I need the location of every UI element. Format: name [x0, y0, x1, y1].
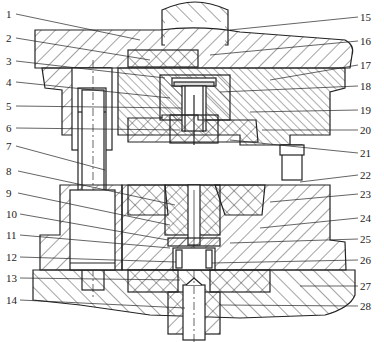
part-label-4: 4	[6, 77, 12, 88]
part-label-10: 10	[6, 209, 17, 220]
part-label-22: 22	[360, 170, 371, 181]
part-label-9: 9	[6, 188, 12, 199]
part-label-6: 6	[6, 123, 12, 134]
part-label-17: 17	[360, 60, 371, 71]
part-label-15: 15	[360, 12, 371, 23]
part-label-3: 3	[6, 56, 12, 67]
part-label-23: 23	[360, 189, 371, 200]
part-label-8: 8	[6, 166, 12, 177]
part-label-19: 19	[360, 105, 371, 116]
part-label-12: 12	[6, 252, 17, 263]
part-label-1: 1	[6, 9, 12, 20]
part-label-28: 28	[360, 301, 371, 312]
part-label-21: 21	[360, 148, 371, 159]
die-assembly-drawing	[0, 0, 384, 342]
lower-die	[33, 185, 355, 342]
part-label-7: 7	[6, 141, 12, 152]
part-label-20: 20	[360, 125, 371, 136]
part-label-14: 14	[6, 295, 17, 306]
die-insert	[128, 185, 168, 215]
part-label-5: 5	[6, 101, 12, 112]
part-label-13: 13	[6, 273, 17, 284]
part-label-25: 25	[360, 234, 371, 245]
part-label-2: 2	[6, 33, 12, 44]
part-label-26: 26	[360, 255, 371, 266]
part-label-16: 16	[360, 36, 371, 47]
part-label-27: 27	[360, 281, 371, 292]
part-label-11: 11	[6, 230, 17, 241]
part-label-18: 18	[360, 81, 371, 92]
part-label-24: 24	[360, 213, 371, 224]
